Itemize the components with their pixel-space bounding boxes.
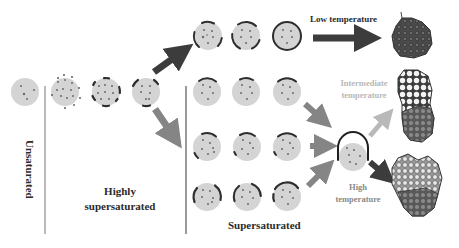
supersaturated-row-3 (193, 133, 326, 161)
label-unsaturated: Unsaturated (24, 140, 36, 199)
particle-low-3 (273, 22, 301, 50)
arrow-to-supersaturated (155, 109, 174, 137)
arrow-to-high (370, 162, 386, 176)
label-highly: Highly (104, 185, 136, 197)
product-low-temperature (392, 12, 432, 58)
particle-low-2 (232, 22, 260, 50)
product-high-temperature (392, 154, 442, 216)
label-high-temperature-2: temperature (335, 194, 380, 204)
label-supersaturated: Supersaturated (228, 219, 301, 231)
supersaturated-row-2 (193, 78, 323, 120)
supersaturated-row-4 (193, 168, 326, 211)
particle-row2-2 (232, 78, 260, 106)
label-intermediate-temperature-2: temperature (341, 90, 386, 100)
particle-row2-1 (193, 78, 221, 106)
particle-row3-3 (273, 133, 301, 161)
label-supersaturated-line2: supersaturated (85, 200, 156, 212)
particle-low-1 (194, 22, 222, 50)
arrow-row4-to-merge (308, 168, 326, 186)
particle-row4-3 (273, 182, 301, 211)
low-temp-row (194, 22, 368, 50)
particle-row2-3 (273, 78, 301, 106)
arrow-to-low-temp (154, 52, 182, 72)
particle-nucleation (51, 74, 81, 109)
particle-row4-1 (193, 183, 221, 211)
particle-split (132, 78, 160, 106)
particle-unsaturated (11, 78, 39, 106)
particle-row4-2 (233, 183, 261, 211)
particle-row3-1 (193, 133, 221, 161)
product-intermediate-temperature (398, 70, 434, 142)
label-intermediate-temperature-1: Intermediate (340, 78, 387, 88)
particle-row3-2 (233, 133, 261, 161)
label-high-temperature-1: High (349, 182, 367, 192)
arrow-to-intermediate (370, 116, 387, 136)
arrow-row2-to-merge (305, 104, 323, 120)
particle-growth (92, 78, 120, 106)
particle-merged (338, 132, 368, 171)
label-low-temperature: Low temperature (310, 14, 377, 24)
crystallization-diagram: Unsaturated Highly supersaturated Supers… (0, 0, 459, 248)
